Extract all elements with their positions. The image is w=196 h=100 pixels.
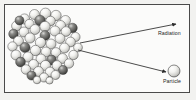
nucleon-sphere: [46, 77, 53, 84]
nucleon-sphere: [55, 34, 65, 44]
nucleon-sphere: [20, 42, 30, 52]
particle-arrow: [78, 50, 166, 72]
particle-sphere: [168, 65, 180, 77]
nucleon-sphere: [15, 16, 24, 25]
emitted-particle-sphere: [168, 65, 180, 77]
diagram-canvas: Radiation Particle: [0, 0, 196, 100]
radiation-label: Radiation: [158, 30, 181, 36]
nucleus-cluster: [8, 8, 83, 84]
diagram-graphics: [0, 0, 196, 100]
particle-label: Particle: [163, 78, 181, 84]
nucleon-sphere: [69, 50, 78, 59]
nucleon-sphere: [40, 21, 50, 31]
nucleon-sphere: [25, 33, 35, 43]
nucleon-sphere: [33, 76, 41, 84]
